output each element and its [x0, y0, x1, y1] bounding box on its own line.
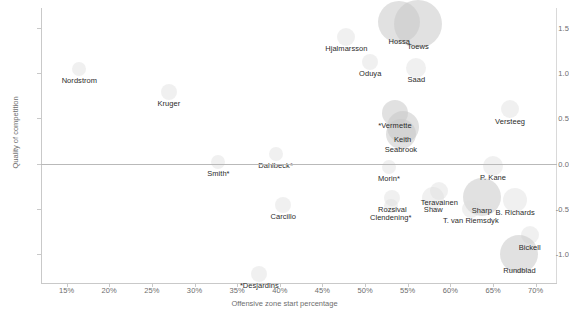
x-tick-label: 25%	[144, 286, 159, 295]
data-point-label: Kruger	[158, 99, 181, 108]
y-tick-mark	[37, 118, 41, 119]
y-tick-mark	[37, 28, 41, 29]
zero-reference-line	[41, 164, 557, 165]
data-point-label: Seabrook	[385, 145, 418, 154]
x-tick-label: 15%	[59, 286, 74, 295]
data-point-label: Keith	[394, 135, 411, 144]
data-point-label: Dahlbeck*	[258, 161, 293, 170]
data-point-label: Saad	[407, 75, 425, 84]
y-tick-mark	[37, 209, 41, 210]
x-tick-label: 30%	[187, 286, 202, 295]
plot-right-border	[556, 8, 557, 283]
data-point-label: B. Richards	[496, 208, 535, 217]
data-point-label: Morin*	[378, 174, 400, 183]
data-point-label: Sharp	[472, 206, 492, 215]
y-tick-mark	[37, 254, 41, 255]
data-point-label: Oduya	[359, 69, 381, 78]
x-tick-label: 40%	[272, 286, 287, 295]
x-axis-line	[41, 283, 557, 284]
data-point-label: Smith*	[207, 169, 229, 178]
y-axis-title: Quality of competition	[11, 88, 20, 178]
y-tick-label: -1.0	[535, 250, 569, 259]
bubble-scatter-chart: NordstromKrugerHjalmarssonHossaToewsOduy…	[0, 0, 569, 313]
plot-area	[41, 8, 558, 283]
data-point-label: T. van Riemsdyk	[443, 216, 499, 225]
x-tick-label: 45%	[315, 286, 330, 295]
x-tick-label: 20%	[102, 286, 117, 295]
data-point-label: *Vermette	[378, 121, 411, 130]
x-tick-label: 70%	[528, 286, 543, 295]
data-point-label: P. Kane	[480, 173, 506, 182]
x-tick-label: 35%	[230, 286, 245, 295]
data-point-label: Rundblad	[503, 266, 536, 275]
x-axis-title: Offensive zone start percentage	[0, 299, 569, 308]
data-point-label: Versteeg	[495, 117, 525, 126]
y-tick-label: 1.0	[535, 69, 569, 78]
y-tick-label: -0.5	[535, 204, 569, 213]
data-point-label: Carcillo	[271, 212, 296, 221]
data-point-label: Nordstrom	[62, 76, 97, 85]
y-tick-label: 0.5	[535, 114, 569, 123]
x-tick-label: 65%	[485, 286, 500, 295]
data-point-label: Clendening*	[370, 213, 411, 222]
x-tick-label: 55%	[400, 286, 415, 295]
data-point-label: Hjalmarsson	[325, 44, 367, 53]
data-point-label: Toews	[407, 42, 429, 51]
x-tick-label: 50%	[357, 286, 372, 295]
y-tick-mark	[37, 73, 41, 74]
y-tick-label: 1.5	[535, 23, 569, 32]
data-point-label: Shaw	[424, 205, 443, 214]
x-tick-label: 60%	[443, 286, 458, 295]
